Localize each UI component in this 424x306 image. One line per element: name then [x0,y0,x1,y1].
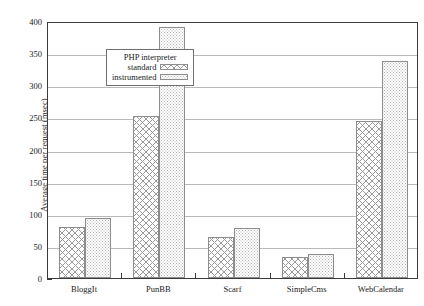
gridline [48,119,417,120]
bar-punbb-standard [133,116,159,278]
legend: PHP interpreter standardinstrumented [106,49,194,86]
legend-entry-label: instrumented [112,72,156,82]
bar-scarf-instrumented [234,228,260,278]
y-axis-tick-label: 400 [2,17,42,27]
x-axis-tick-mark [270,273,271,279]
plot-area: PHP interpreter standardinstrumented [47,22,418,279]
x-axis-tick-mark [195,273,196,279]
legend-swatch-crosshatch [160,64,188,71]
bar-webcalendar-instrumented [382,61,408,278]
y-axis-tick-label: 150 [2,178,42,188]
gridline [48,55,417,56]
bar-webcalendar-standard [356,121,382,278]
bar-bloggit-instrumented [85,218,111,278]
y-axis-tick-label: 300 [2,81,42,91]
y-axis-tick-label: 200 [2,146,42,156]
legend-entries: standardinstrumented [112,62,188,82]
bar-simplecms-standard [282,257,308,278]
bar-bloggit-standard [59,227,85,278]
y-axis-tick-mark [47,279,52,280]
y-axis-tick-label: 100 [2,210,42,220]
bar-simplecms-instrumented [308,254,334,278]
gridline [48,87,417,88]
legend-entry-instrumented: instrumented [112,72,188,82]
bar-scarf-standard [208,237,234,278]
x-axis-tick-mark [121,273,122,279]
legend-title: PHP interpreter [112,52,188,62]
bar-chart: Average time per request (msec) 05010015… [0,0,424,306]
y-axis-tick-label: 250 [2,113,42,123]
y-axis-tick-label: 0 [2,274,42,284]
legend-entry-standard: standard [112,62,188,72]
y-axis-tick-label: 350 [2,49,42,59]
x-axis-tick-label: WebCalendar [326,284,424,294]
legend-entry-label: standard [128,62,157,72]
y-axis-tick-label: 50 [2,242,42,252]
x-axis-tick-mark [344,273,345,279]
legend-swatch-stipple [160,74,188,81]
